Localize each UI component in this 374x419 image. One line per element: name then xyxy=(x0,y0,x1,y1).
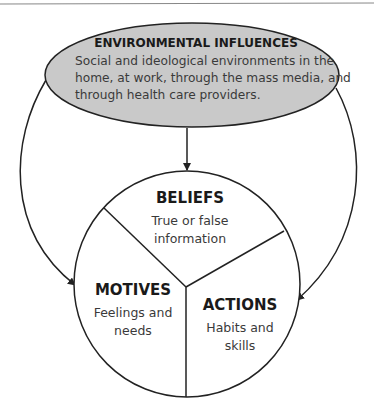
beliefs-line-2: information xyxy=(154,231,226,246)
environment-line-3: through health care providers. xyxy=(75,88,261,102)
environmental-influences-diagram: ENVIRONMENTAL INFLUENCES Social and ideo… xyxy=(0,0,374,419)
actions-title: ACTIONS xyxy=(203,296,278,314)
actions-line-1: Habits and xyxy=(206,320,273,335)
motives-line-1: Feelings and xyxy=(94,305,173,320)
motives-line-2: needs xyxy=(114,323,152,338)
beliefs-line-1: True or false xyxy=(150,213,228,228)
environment-line-2: home, at work, through the mass media, a… xyxy=(75,71,351,85)
top-rule xyxy=(0,3,374,4)
motives-title: MOTIVES xyxy=(95,281,171,299)
beliefs-title: BELIEFS xyxy=(156,189,224,207)
arrow-environment-to-actions xyxy=(297,88,357,300)
arrow-environment-to-motives xyxy=(20,80,75,285)
environment-line-1: Social and ideological environments in t… xyxy=(75,54,334,68)
environment-title: ENVIRONMENTAL INFLUENCES xyxy=(94,36,298,50)
actions-line-2: skills xyxy=(225,338,256,353)
